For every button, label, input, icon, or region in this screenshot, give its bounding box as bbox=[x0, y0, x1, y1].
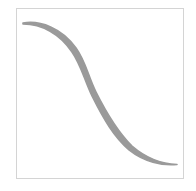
s-curve-stroke bbox=[23, 22, 177, 164]
s-curve-graphic bbox=[0, 0, 196, 191]
